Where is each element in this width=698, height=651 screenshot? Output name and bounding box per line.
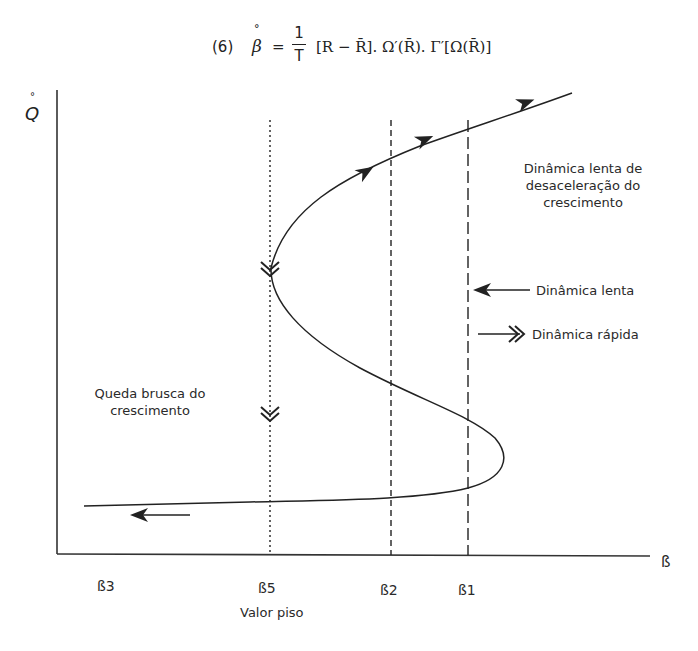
tick-label-beta1: ß1 (458, 582, 476, 598)
sudden-drop-annotation: Queda brusca do crescimento (90, 385, 210, 419)
slow-arrow-icon (355, 161, 378, 182)
legend-slow-arrow-icon (473, 283, 530, 297)
y-axis-label: ° Q (25, 103, 39, 124)
x-axis-label: ß (661, 553, 670, 571)
tick-label-beta2: ß2 (380, 582, 398, 598)
dot-accent-icon: ° (30, 91, 35, 102)
tick-label-beta5: ß5 (258, 580, 276, 596)
legend-slow-label: Dinâmica lenta (536, 282, 634, 299)
s-curve (84, 93, 572, 506)
x-axis (57, 554, 650, 556)
fast-down-arrow-icon (261, 262, 279, 276)
floor-value-label: Valor piso (240, 604, 303, 621)
legend-fast-label: Dinâmica rápida (532, 326, 639, 343)
legend-fast-arrow-icon (478, 326, 524, 342)
fast-down-arrow-icon (261, 407, 279, 421)
tick-label-beta3: ß3 (97, 578, 115, 594)
slow-deceleration-annotation: Dinâmica lenta de desaceleração do cresc… (508, 160, 658, 211)
leftward-arrow-icon (130, 508, 190, 522)
